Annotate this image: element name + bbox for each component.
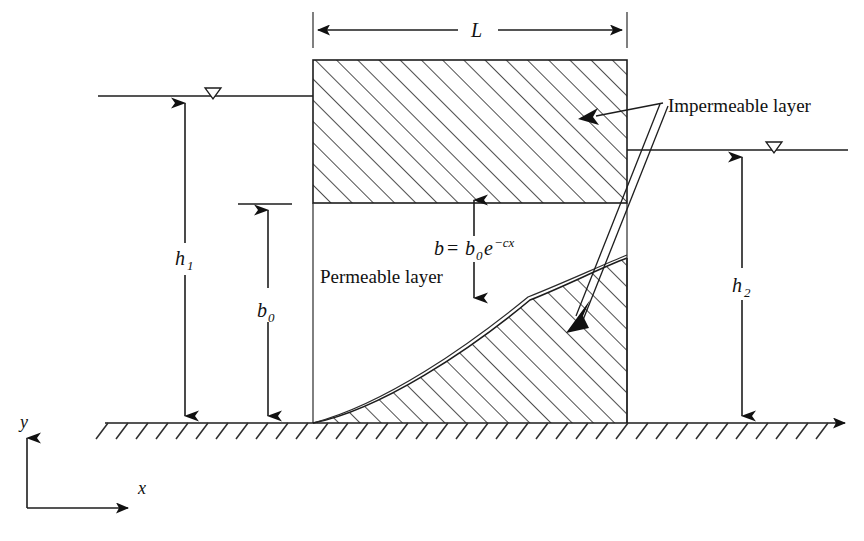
label-thickness-equation: b = b 0 e −cx — [434, 235, 515, 263]
impermeable-layer-block — [313, 60, 627, 203]
svg-text:=: = — [447, 237, 458, 259]
figure-canvas: L — [0, 0, 864, 541]
label-permeable-layer: Permeable layer — [320, 266, 444, 287]
ground-datum-line — [96, 423, 845, 439]
svg-text:b: b — [465, 237, 475, 259]
dimension-L — [313, 12, 627, 48]
coordinate-axes — [27, 438, 128, 508]
svg-text:e: e — [484, 237, 493, 259]
svg-text:0: 0 — [476, 248, 483, 263]
label-h1: h 1 — [175, 247, 194, 273]
svg-text:b: b — [257, 299, 267, 321]
svg-text:−cx: −cx — [494, 235, 515, 250]
water-surface-right — [627, 142, 848, 153]
water-table-triangle-left — [205, 88, 221, 99]
label-b0: b 0 — [257, 299, 275, 325]
label-h2: h 2 — [732, 274, 751, 300]
svg-text:h: h — [732, 274, 742, 296]
schematic-svg: L — [0, 0, 864, 541]
svg-text:h: h — [175, 247, 185, 269]
label-axis-y: y — [18, 412, 28, 432]
water-table-triangle-right — [766, 142, 782, 153]
svg-text:b: b — [434, 237, 444, 259]
label-impermeable-layer: Impermeable layer — [668, 95, 812, 116]
label-axis-x: x — [137, 478, 146, 498]
svg-text:2: 2 — [744, 285, 751, 300]
water-surface-left — [98, 88, 313, 99]
svg-text:0: 0 — [268, 310, 275, 325]
svg-text:1: 1 — [187, 258, 194, 273]
label-length-L: L — [470, 19, 482, 41]
